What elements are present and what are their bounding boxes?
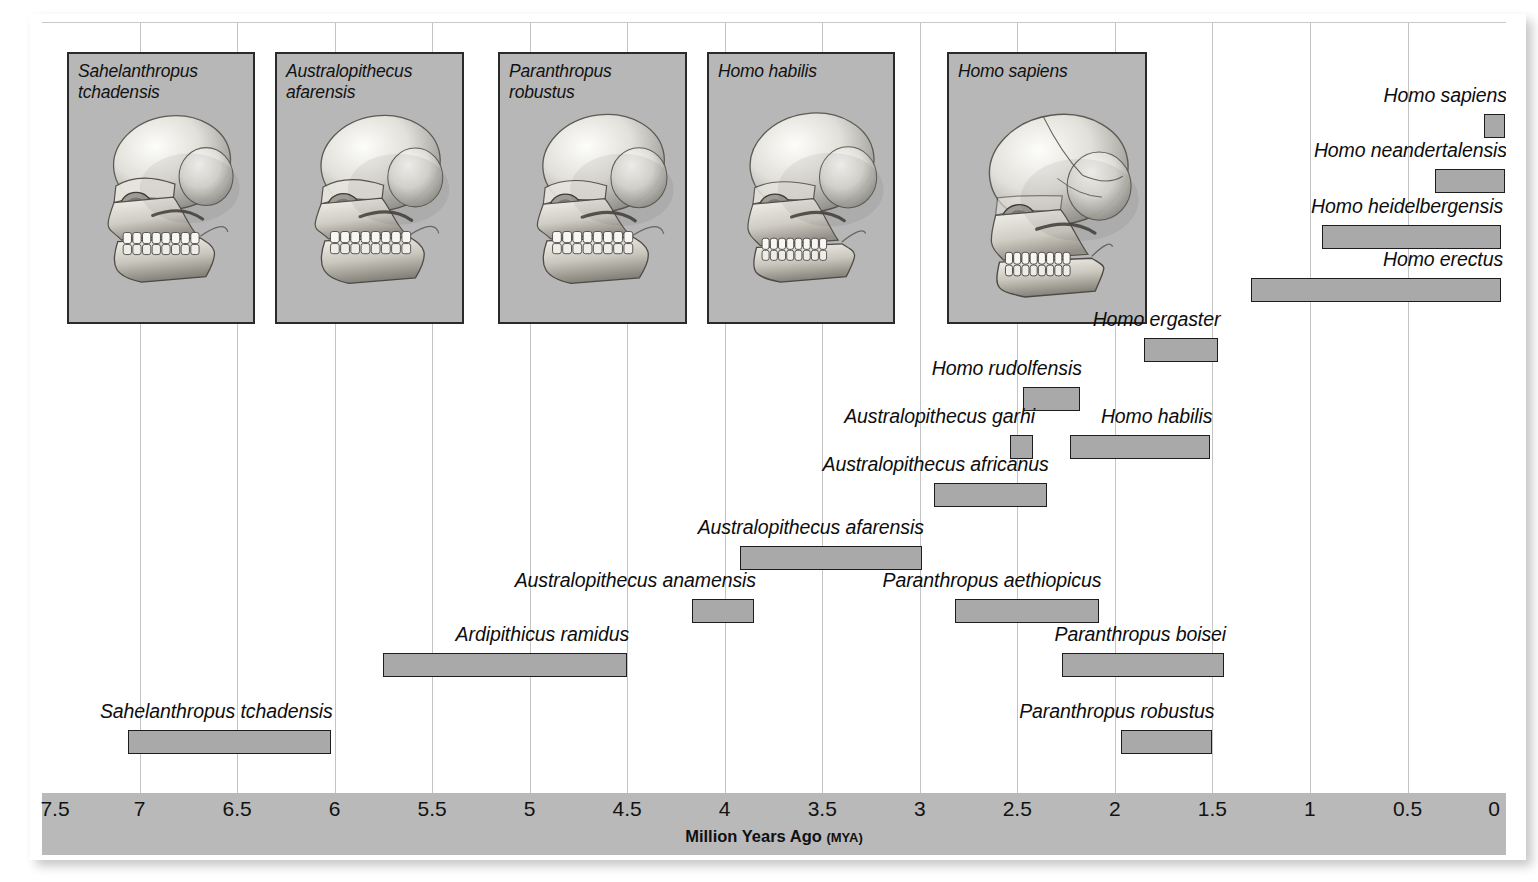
timeline-bar-label: Sahelanthropus tchadensis (100, 700, 333, 723)
timeline-bar (128, 730, 331, 754)
skull-panel-label: Australopithecus afarensis (286, 61, 412, 102)
x-axis-tick-label: 7 (134, 797, 146, 821)
skull-panel-homo-sapiens: Homo sapiens (947, 52, 1147, 324)
x-axis-tick-label: 5 (524, 797, 536, 821)
timeline-bar (1484, 114, 1506, 138)
timeline-bar-label: Australopithecus anamensis (515, 569, 756, 592)
timeline-bar (955, 599, 1099, 623)
x-axis-tick-label: 5.5 (417, 797, 446, 821)
skull-panel-label: Homo sapiens (958, 61, 1067, 82)
x-axis-tick-label: 6.5 (222, 797, 251, 821)
timeline-bar-label: Homo erectus (1383, 248, 1503, 271)
skull-panel-sahelanthropus-tchadensis: Sahelanthropus tchadensis (67, 52, 255, 324)
skull-panel-label: Homo habilis (718, 61, 817, 82)
x-axis-tick-label: 2 (1109, 797, 1121, 821)
timeline-bar-label: Paranthropus robustus (1019, 700, 1214, 723)
x-axis-tick-label: 7.5 (40, 797, 69, 821)
timeline-bar-label: Australopithecus garhi (844, 405, 1035, 428)
timeline-bar (1435, 169, 1505, 193)
x-axis-title-text: Million Years Ago (685, 827, 822, 845)
timeline-bar-label: Homo sapiens (1384, 84, 1506, 107)
x-axis-tick-label: 2.5 (1003, 797, 1032, 821)
x-axis-tick-label: 1 (1304, 797, 1316, 821)
timeline-bar-label: Homo rudolfensis (932, 357, 1082, 380)
skull-panel-label: Sahelanthropus tchadensis (78, 61, 198, 102)
timeline-bar-label: Ardipithicus ramidus (456, 623, 630, 646)
timeline-bar (740, 546, 921, 570)
x-axis-strip: 7.576.565.554.543.532.521.510.50 Million… (42, 793, 1506, 855)
timeline-bar-label: Homo heidelbergensis (1311, 195, 1503, 218)
timeline-bar-label: Paranthropus aethiopicus (883, 569, 1102, 592)
x-axis-tick-label: 3.5 (808, 797, 837, 821)
x-axis-unit: (MYA) (826, 830, 862, 845)
figure-root: Sahelanthropus tchadensis (0, 0, 1538, 882)
skull-panel-australopithecus-afarensis: Australopithecus afarensis (275, 52, 464, 324)
x-axis-title: Million Years Ago (MYA) (42, 827, 1506, 846)
x-axis-tick-label: 4.5 (613, 797, 642, 821)
timeline-bar (1062, 653, 1224, 677)
gridline (1310, 23, 1311, 793)
skull-panel-homo-habilis: Homo habilis (707, 52, 895, 324)
skull-panel-paranthropus-robustus: Paranthropus robustus (498, 52, 687, 324)
skull-panel-label: Paranthropus robustus (509, 61, 612, 102)
timeline-bar-label: Homo habilis (1101, 405, 1213, 428)
timeline-bar (1251, 278, 1501, 302)
timeline-bar (692, 599, 754, 623)
timeline-bar (383, 653, 627, 677)
timeline-plot-area: Sahelanthropus tchadensis (42, 22, 1506, 793)
x-axis-tick-label: 0 (1488, 797, 1500, 821)
timeline-bar-label: Australopithecus afarensis (698, 516, 924, 539)
skull-illustration (949, 54, 1145, 324)
x-axis-tick-label: 3 (914, 797, 926, 821)
timeline-bar-label: Paranthropus boisei (1055, 623, 1227, 646)
x-axis-tick-label: 6 (329, 797, 341, 821)
timeline-bar (1121, 730, 1213, 754)
timeline-bar (1322, 225, 1502, 249)
x-axis-tick-label: 4 (719, 797, 731, 821)
timeline-bar (934, 483, 1047, 507)
timeline-bar-label: Homo neandertalensis (1314, 139, 1506, 162)
timeline-bar-label: Australopithecus africanus (822, 453, 1048, 476)
timeline-bar (1070, 435, 1210, 459)
x-axis-tick-label: 1.5 (1198, 797, 1227, 821)
skull-illustration (709, 54, 893, 321)
timeline-bar (1144, 338, 1218, 362)
x-axis-tick-label: 0.5 (1393, 797, 1422, 821)
